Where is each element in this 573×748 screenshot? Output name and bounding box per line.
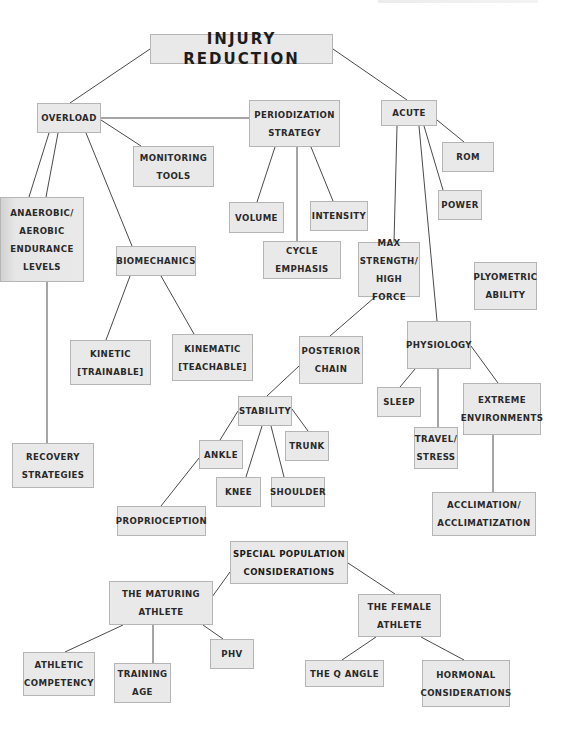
edge-acute-to-power xyxy=(424,126,443,190)
node-hormonal: HORMONAL CONSIDERATIONS xyxy=(422,660,510,707)
edge-biomechanics-to-kinetic xyxy=(106,276,130,340)
edge-stability-to-knee xyxy=(246,426,262,477)
node-label: THE MATURING ATHLETE xyxy=(122,585,200,621)
node-special-population: SPECIAL POPULATION CONSIDERATIONS xyxy=(230,541,348,584)
edge-stability-to-shoulder xyxy=(271,426,284,477)
node-label: BIOMECHANICS xyxy=(116,252,195,270)
node-label: OVERLOAD xyxy=(41,109,96,127)
edge-female-athlete-to-q-angle xyxy=(342,637,376,660)
node-label: STABILITY xyxy=(239,402,291,420)
node-label: KINETIC [TRAINABLE] xyxy=(77,345,143,381)
node-travel-stress: TRAVEL/ STRESS xyxy=(414,427,458,469)
node-label: PLYOMETRIC ABILITY xyxy=(473,268,537,304)
node-label: SLEEP xyxy=(383,393,415,411)
node-plyometric: PLYOMETRIC ABILITY xyxy=(474,262,537,310)
node-label: INTENSITY xyxy=(312,207,366,225)
node-maturing-athlete: THE MATURING ATHLETE xyxy=(109,581,213,625)
node-recovery: RECOVERY STRATEGIES xyxy=(12,443,94,488)
node-acute: ACUTE xyxy=(381,100,437,126)
node-label: VOLUME xyxy=(235,209,278,227)
node-anaerobic: ANAEROBIC/ AEROBIC ENDURANCE LEVELS xyxy=(0,197,84,282)
node-label: SPECIAL POPULATION CONSIDERATIONS xyxy=(233,545,345,581)
edge-acute-to-rom xyxy=(437,120,464,142)
node-trunk: TRUNK xyxy=(285,431,329,461)
node-stability: STABILITY xyxy=(238,396,292,426)
node-female-athlete: THE FEMALE ATHLETE xyxy=(358,594,441,637)
edge-female-athlete-to-hormonal xyxy=(421,637,464,660)
node-label: ANAEROBIC/ AEROBIC ENDURANCE LEVELS xyxy=(10,204,73,276)
node-shoulder: SHOULDER xyxy=(271,477,325,507)
concept-map-canvas: INJURY REDUCTIONOVERLOADPERIODIZATION ST… xyxy=(0,0,573,748)
edge-posterior-chain-to-stability xyxy=(267,366,299,396)
edge-acute-to-max-strength xyxy=(394,126,397,242)
node-ankle: ANKLE xyxy=(199,440,243,469)
node-label: CYCLE EMPHASIS xyxy=(275,242,328,278)
node-label: ACCLIMATION/ ACCLIMATIZATION xyxy=(437,496,530,532)
node-label: TRAINING AGE xyxy=(117,665,167,701)
node-phv: PHV xyxy=(210,639,254,669)
node-label: PHV xyxy=(221,645,242,663)
node-label: ATHLETIC COMPETENCY xyxy=(24,656,94,692)
edge-injury-reduction-to-overload xyxy=(70,49,150,103)
node-biomechanics: BIOMECHANICS xyxy=(116,246,196,276)
node-acclimation: ACCLIMATION/ ACCLIMATIZATION xyxy=(432,492,536,536)
node-kinetic: KINETIC [TRAINABLE] xyxy=(70,340,151,385)
node-training-age: TRAINING AGE xyxy=(114,663,171,703)
edge-overload-to-anaerobic xyxy=(46,133,58,197)
edge-physiology-to-sleep xyxy=(400,369,415,387)
edge-maturing-athlete-to-phv xyxy=(203,625,223,639)
node-sleep: SLEEP xyxy=(377,387,421,417)
node-label: PROPRIOCEPTION xyxy=(116,512,207,530)
edge-overload-to-biomechanics xyxy=(86,133,132,246)
node-volume: VOLUME xyxy=(229,202,284,233)
node-label: THE Q ANGLE xyxy=(310,665,379,683)
node-injury-reduction: INJURY REDUCTION xyxy=(150,34,333,64)
edge-overload-to-anaerobic xyxy=(29,133,49,197)
node-label: TRAVEL/ STRESS xyxy=(415,430,457,466)
edge-periodization-to-volume xyxy=(257,147,275,202)
node-label: ACUTE xyxy=(392,104,426,122)
node-proprioception: PROPRIOCEPTION xyxy=(117,506,206,536)
node-periodization: PERIODIZATION STRATEGY xyxy=(249,100,340,147)
node-athletic-competency: ATHLETIC COMPETENCY xyxy=(23,652,95,696)
edge-injury-reduction-to-acute xyxy=(333,49,407,100)
node-intensity: INTENSITY xyxy=(310,201,368,231)
node-overload: OVERLOAD xyxy=(37,103,101,133)
edge-overload-to-monitoring-tools xyxy=(101,120,141,146)
edge-maturing-athlete-to-athletic-competency xyxy=(65,625,123,652)
node-cycle-emphasis: CYCLE EMPHASIS xyxy=(263,241,341,279)
node-label: EXTREME ENVIRONMENTS xyxy=(461,391,544,427)
edge-special-population-to-maturing-athlete xyxy=(212,572,230,597)
node-label: ROM xyxy=(456,148,480,166)
node-label: RECOVERY STRATEGIES xyxy=(22,448,85,484)
node-monitoring-tools: MONITORING TOOLS xyxy=(133,146,214,187)
edge-special-population-to-female-athlete xyxy=(348,563,395,594)
node-physiology: PHYSIOLOGY xyxy=(407,321,471,369)
edge-acute-to-physiology xyxy=(419,126,437,321)
edge-ankle-to-proprioception xyxy=(161,458,199,506)
node-label: PERIODIZATION STRATEGY xyxy=(254,106,335,142)
node-label: SHOULDER xyxy=(270,483,326,501)
node-q-angle: THE Q ANGLE xyxy=(305,660,384,687)
node-label: TRUNK xyxy=(289,437,324,455)
node-label: MONITORING TOOLS xyxy=(140,149,207,185)
node-label: HORMONAL CONSIDERATIONS xyxy=(420,666,511,702)
node-label: PHYSIOLOGY xyxy=(406,336,472,354)
node-max-strength: MAX STRENGTH/ HIGH FORCE xyxy=(358,242,420,297)
node-label: KNEE xyxy=(225,483,252,501)
node-label: INJURY REDUCTION xyxy=(151,29,332,69)
edge-stability-to-ankle xyxy=(220,411,238,440)
node-extreme-env: EXTREME ENVIRONMENTS xyxy=(463,383,541,435)
node-knee: KNEE xyxy=(216,477,261,507)
edge-biomechanics-to-kinematic xyxy=(161,276,194,334)
node-label: ANKLE xyxy=(204,446,238,464)
node-label: KINEMATIC [TEACHABLE] xyxy=(178,340,247,376)
edge-stability-to-trunk xyxy=(292,409,308,431)
edge-periodization-to-intensity xyxy=(311,147,333,201)
node-label: POSTERIOR CHAIN xyxy=(302,342,361,378)
node-posterior-chain: POSTERIOR CHAIN xyxy=(299,336,363,384)
node-power: POWER xyxy=(438,190,482,220)
node-rom: ROM xyxy=(442,142,494,172)
node-label: THE FEMALE ATHLETE xyxy=(367,598,431,634)
node-label: POWER xyxy=(441,196,479,214)
